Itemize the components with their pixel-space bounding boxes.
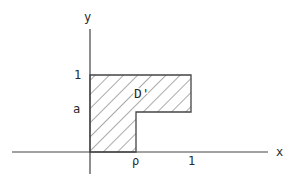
x-tick-one: 1 [188, 154, 195, 168]
y-axis-label: y [84, 10, 91, 24]
y-tick-one: 1 [74, 68, 81, 82]
diagram-canvas: y x 1 a ρ 1 D' [0, 0, 300, 194]
x-axis-label: x [276, 145, 283, 159]
x-tick-rho: ρ [132, 154, 139, 168]
y-tick-a: a [73, 102, 80, 116]
region-label: D' [134, 86, 150, 101]
